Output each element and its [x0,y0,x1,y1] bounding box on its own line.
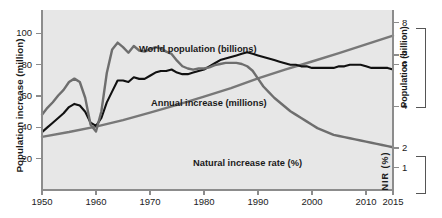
bottom-axis-spine [41,189,394,191]
x-axis-tick [41,190,42,195]
x-axis-tick [257,190,258,195]
series-label-natural-increase-rate: Natural increase rate (%) [193,158,302,168]
chart-canvas [0,0,442,218]
nir-axis-bracket [416,156,426,194]
x-axis-tick-label: 2010 [355,197,376,207]
x-axis-tick-label: 1960 [85,197,106,207]
x-axis-tick [365,190,366,195]
right-population-axis-title-text: Population (billion) [399,26,409,107]
x-axis-tick-label: 1980 [193,197,214,207]
left-axis-tick [36,33,42,34]
left-axis-spine [41,10,43,190]
x-axis-tick [392,190,393,195]
x-axis-tick-label: 1950 [31,197,52,207]
right-population-tick [393,147,399,148]
left-axis-tick [36,64,42,65]
x-axis-tick-label: 1970 [139,197,160,207]
left-axis-tick [36,95,42,96]
series-label-annual-increase: Annual increase (millions) [151,98,267,108]
series-line-natural-increase-rate [42,43,393,148]
right-population-tick-label: 2 [402,143,407,153]
x-axis-tick-label: 2000 [301,197,322,207]
x-axis-tick [203,190,204,195]
x-axis-tick [95,190,96,195]
x-axis-tick-label: 1990 [247,197,268,207]
chart-figure: 20406080100 246812 195019601970198019902… [0,0,442,218]
right-nir-tick-label: 1 [402,163,407,173]
right-nir-axis-title: NIR (%) [380,136,390,206]
x-axis-tick [311,190,312,195]
population-axis-bracket [416,28,426,108]
left-axis-title: Population increase (million) [14,21,25,191]
right-nir-tick [393,167,399,168]
x-axis-tick [149,190,150,195]
right-population-axis-title: Population (billion) [399,12,409,122]
series-label-world-population: World population (billions) [139,44,257,54]
left-axis-tick [36,158,42,159]
right-axis-spine [392,10,394,190]
right-nir-axis-title-text: NIR (%) [380,152,390,191]
left-axis-tick [36,127,42,128]
